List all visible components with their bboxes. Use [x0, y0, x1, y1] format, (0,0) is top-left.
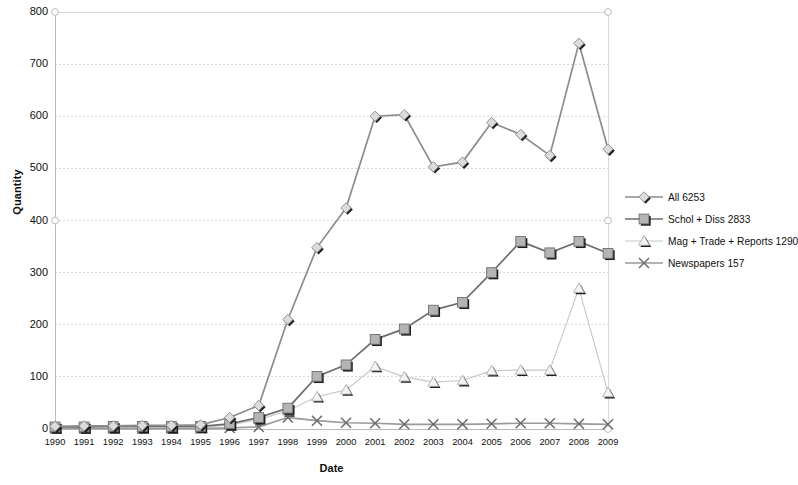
- legend-item[interactable]: Schol + Diss 2833: [624, 208, 791, 230]
- x-tick-label: 1993: [126, 437, 158, 447]
- x-tick-label: 1990: [39, 437, 71, 447]
- x-tick-label: 2008: [563, 437, 595, 447]
- x-tick-label: 2001: [359, 437, 391, 447]
- gridlines: [55, 12, 608, 429]
- legend-item[interactable]: All 6253: [624, 186, 791, 208]
- x-tick-label: 2005: [476, 437, 508, 447]
- series-line: [50, 413, 613, 434]
- x-tick-label: 1992: [97, 437, 129, 447]
- series-line: [50, 236, 615, 433]
- x-tick-label: 1996: [214, 437, 246, 447]
- y-tick-label: 200: [14, 319, 48, 330]
- x-tick-label: 1995: [185, 437, 217, 447]
- x-tick-label: 2004: [446, 437, 478, 447]
- y-tick-label: 800: [14, 6, 48, 17]
- x-tick-label: 2009: [592, 437, 624, 447]
- x-tick-label: 1997: [243, 437, 275, 447]
- y-tick-label: 100: [14, 371, 48, 382]
- series-line: [50, 283, 616, 434]
- legend-marker-icon: [624, 212, 664, 226]
- legend-item[interactable]: Newspapers 157: [624, 252, 791, 274]
- legend-marker-icon: [624, 234, 664, 248]
- legend-label: Schol + Diss 2833: [668, 214, 750, 225]
- y-axis-tick-labels: 0100200300400500600700800: [8, 0, 48, 440]
- y-tick-label: 300: [14, 267, 48, 278]
- legend-marker-icon: [624, 256, 664, 270]
- legend-label: All 6253: [668, 192, 705, 203]
- x-axis-title: Date: [55, 462, 608, 474]
- x-tick-label: 2003: [417, 437, 449, 447]
- series-line: [50, 38, 615, 433]
- x-tick-label: 1991: [68, 437, 100, 447]
- y-tick-label: 500: [14, 162, 48, 173]
- y-tick-label: 400: [14, 215, 48, 226]
- y-tick-label: 600: [14, 110, 48, 121]
- x-tick-label: 2007: [534, 437, 566, 447]
- legend-label: Mag + Trade + Reports 1290: [668, 236, 798, 247]
- x-tick-label: 1994: [155, 437, 187, 447]
- x-tick-label: 2000: [330, 437, 362, 447]
- legend-item[interactable]: Mag + Trade + Reports 1290: [624, 230, 791, 252]
- legend-marker-icon: [624, 190, 664, 204]
- x-tick-label: 2006: [505, 437, 537, 447]
- y-tick-label: 700: [14, 58, 48, 69]
- legend-label: Newspapers 157: [668, 258, 744, 269]
- chart-legend: All 6253Schol + Diss 2833Mag + Trade + R…: [624, 186, 791, 274]
- x-tick-label: 1998: [272, 437, 304, 447]
- x-tick-label: 1999: [301, 437, 333, 447]
- y-tick-label: 0: [14, 423, 48, 434]
- x-tick-label: 2002: [388, 437, 420, 447]
